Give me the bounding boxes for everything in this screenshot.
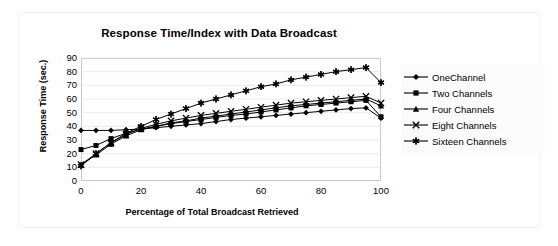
data-point-marker (413, 74, 419, 80)
legend-marker-diamond-icon (403, 70, 429, 84)
y-axis-tick: 70 (47, 80, 77, 90)
x-axis-tick: 60 (246, 185, 276, 196)
legend-label: Sixteen Channels (429, 136, 506, 147)
data-point-marker (413, 90, 418, 95)
data-point-marker (288, 111, 294, 117)
legend-item-eight-channels[interactable]: Eight Channels (403, 117, 543, 133)
data-point-marker (243, 87, 249, 94)
x-axis-tick: 80 (306, 185, 336, 196)
legend-label: Eight Channels (429, 120, 496, 131)
legend-label: Four Channels (429, 104, 494, 115)
plot-wrapper: 0102030405060708090020406080100 (81, 58, 381, 181)
x-axis-tick: 0 (66, 185, 96, 196)
x-axis-label: Percentage of Total Broadcast Retrieved (47, 207, 377, 217)
data-point-marker (363, 105, 369, 111)
data-point-marker (303, 110, 309, 116)
series-onechannel (78, 105, 384, 133)
x-axis-tick: 100 (366, 185, 396, 196)
legend-marker-cross-icon (403, 118, 429, 132)
y-axis-tick: 80 (47, 67, 77, 77)
data-point-marker (78, 128, 84, 134)
legend-item-onechannel[interactable]: OneChannel (403, 69, 543, 85)
data-point-marker (198, 100, 204, 107)
y-axis-tick: 40 (47, 121, 77, 131)
chart-canvas (81, 58, 381, 181)
y-axis-tick: 10 (47, 162, 77, 172)
chart-legend: OneChannelTwo ChannelsFour ChannelsEight… (401, 65, 545, 153)
data-point-marker (228, 92, 234, 99)
data-point-marker (183, 105, 189, 112)
y-axis-tick: 30 (47, 135, 77, 145)
data-point-marker (379, 114, 384, 119)
data-point-marker (273, 113, 279, 119)
legend-marker-star-icon (403, 134, 429, 148)
data-point-marker (348, 106, 354, 112)
data-point-marker (318, 108, 324, 114)
data-point-marker (93, 128, 99, 134)
x-axis-tick: 40 (186, 185, 216, 196)
y-axis-tick: 50 (47, 108, 77, 118)
data-point-marker (168, 111, 174, 118)
data-point-marker (108, 128, 114, 134)
legend-item-sixteen-channels[interactable]: Sixteen Channels (403, 133, 543, 149)
legend-item-two-channels[interactable]: Two Channels (403, 85, 543, 101)
data-point-marker (258, 114, 264, 120)
y-axis-tick: 90 (47, 53, 77, 63)
series-two-channels (79, 98, 384, 152)
legend-label: Two Channels (429, 88, 492, 99)
legend-label: OneChannel (429, 72, 485, 83)
data-point-marker (79, 147, 84, 152)
y-axis-tick: 20 (47, 149, 77, 159)
x-axis-tick: 20 (126, 185, 156, 196)
data-point-marker (94, 143, 99, 148)
data-point-marker (333, 107, 339, 113)
figure-frame: Response Time/Index with Data Broadcast … (18, 12, 540, 228)
page-title: Response Time/Index with Data Broadcast (19, 27, 419, 39)
legend-marker-square-icon (403, 86, 429, 100)
y-axis-tick: 60 (47, 94, 77, 104)
legend-marker-triangle-icon (403, 102, 429, 116)
legend-item-four-channels[interactable]: Four Channels (403, 101, 543, 117)
